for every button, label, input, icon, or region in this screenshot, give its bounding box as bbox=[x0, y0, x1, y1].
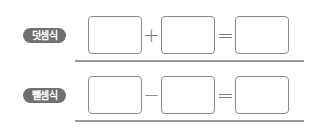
plus-sign: + bbox=[142, 25, 161, 45]
subtrahend-box[interactable] bbox=[161, 76, 215, 114]
addend-1-box[interactable] bbox=[88, 16, 142, 54]
subtraction-label-badge: 뺄셈식 bbox=[23, 88, 66, 103]
equals-sign: = bbox=[216, 85, 235, 105]
addition-underline bbox=[75, 60, 304, 62]
equals-sign: = bbox=[216, 25, 235, 45]
subtraction-underline bbox=[75, 120, 304, 122]
addend-2-box[interactable] bbox=[161, 16, 215, 54]
difference-box[interactable] bbox=[235, 76, 289, 114]
minuend-box[interactable] bbox=[88, 76, 142, 114]
minus-sign: − bbox=[142, 85, 161, 105]
addition-label-badge: 덧셈식 bbox=[23, 28, 66, 43]
sum-box[interactable] bbox=[235, 16, 289, 54]
